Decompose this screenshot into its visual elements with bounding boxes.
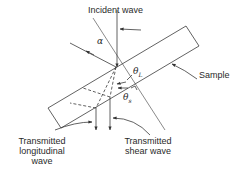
diagram-canvas: Incident wave α θL θs Sample Transmitted… — [0, 0, 246, 185]
reflected-ray — [70, 43, 116, 67]
transmitted-shear-ray — [110, 67, 116, 97]
normal-line — [93, 18, 165, 130]
sample-label: Sample — [199, 70, 230, 80]
theta-s-label: θs — [123, 92, 132, 106]
transmitted-shear-label: Transmitted shear wave — [118, 136, 178, 156]
alpha-label: α — [97, 36, 103, 46]
sample-slab — [48, 26, 199, 128]
incident-wave-label: Incident wave — [88, 5, 143, 15]
transmitted-longitudinal-label: Transmitted longitudinal wave — [12, 136, 72, 166]
theta-l-label: θL — [133, 66, 142, 80]
